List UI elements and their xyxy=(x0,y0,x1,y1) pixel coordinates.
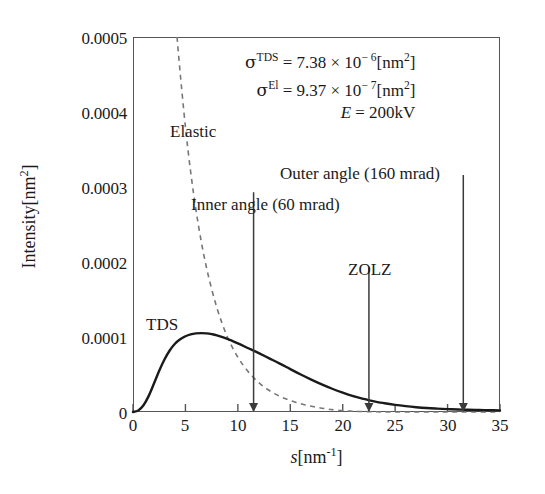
el-sigma-exponent: − 7 xyxy=(361,79,376,92)
el-sigma-symbol: σ xyxy=(257,79,269,99)
x-axis-unit-close: ] xyxy=(337,447,343,467)
x-axis-unit-open: [nm xyxy=(297,447,326,467)
x-tick-20: 20 xyxy=(335,417,352,434)
marker-arrow-zolz xyxy=(364,267,373,412)
tds-sigma-exponent: − 6 xyxy=(361,51,376,64)
tds-sigma-unit-open: [nm xyxy=(377,53,404,72)
x-tick-10: 10 xyxy=(230,417,247,434)
y-axis-unit-open: [nm xyxy=(19,177,39,206)
arrow-head xyxy=(364,403,373,412)
y-axis-title-text: Intensity xyxy=(19,206,39,269)
el-sigma-value: = 9.37 × 10 xyxy=(278,80,361,99)
y-axis-title: Intensity[nm2] xyxy=(17,127,40,307)
elastic-cross-section-line: σEl = 9.37 × 10− 7[nm2] xyxy=(245,74,415,102)
tds-sigma-unit-close: ] xyxy=(410,53,416,72)
x-tick-0: 0 xyxy=(129,417,138,434)
y-tick-0: 0 xyxy=(119,405,127,422)
x-tick-30: 30 xyxy=(440,417,457,434)
y-tick-0.0003: 0.0003 xyxy=(81,180,127,197)
x-axis-unit-exponent: -1 xyxy=(326,445,336,459)
y-axis-unit-close: ] xyxy=(19,164,39,170)
tds-sigma-symbol: σ xyxy=(245,52,257,72)
x-tick-25: 25 xyxy=(387,417,404,434)
y-tick-0.0004: 0.0004 xyxy=(81,105,127,122)
tds-sigma-superscript: TDS xyxy=(257,51,279,64)
energy-value: = 200kV xyxy=(351,103,415,122)
y-axis-unit-exponent: 2 xyxy=(17,170,31,176)
x-tick-35: 35 xyxy=(492,417,509,434)
zolz-label: ZOLZ xyxy=(348,260,391,280)
energy-symbol: E xyxy=(341,103,351,122)
marker-arrow-outer xyxy=(459,175,468,412)
tds-sigma-value: = 7.38 × 10 xyxy=(278,53,361,72)
el-sigma-unit-open: [nm xyxy=(377,80,404,99)
elastic-curve-label: Elastic xyxy=(170,122,216,142)
x-tick-5: 5 xyxy=(181,417,190,434)
el-sigma-unit-close: ] xyxy=(410,80,416,99)
beam-energy-line: E = 200kV xyxy=(245,101,415,124)
tds-curve-label: TDS xyxy=(146,315,178,335)
y-tick-0.0002: 0.0002 xyxy=(81,255,127,272)
outer-angle-label: Outer angle (160 mrad) xyxy=(280,164,440,184)
el-sigma-superscript: El xyxy=(268,79,278,92)
inner-angle-label: Inner angle (60 mrad) xyxy=(191,195,340,215)
parameter-annotation-block: σTDS = 7.38 × 10− 6[nm2] σEl = 9.37 × 10… xyxy=(245,46,415,124)
y-tick-0.0001: 0.0001 xyxy=(81,330,127,347)
marker-arrow-inner xyxy=(249,192,258,412)
tds-curve xyxy=(133,333,500,412)
tds-elastic-intensity-chart: 0.0005 0.0004 0.0003 0.0002 0.0001 0 Int… xyxy=(0,0,545,494)
x-tick-15: 15 xyxy=(282,417,299,434)
tds-cross-section-line: σTDS = 7.38 × 10− 6[nm2] xyxy=(245,46,415,74)
x-axis-title: s[nm-1] xyxy=(133,445,500,468)
arrow-head xyxy=(249,403,258,412)
y-tick-0.0005: 0.0005 xyxy=(81,30,127,47)
